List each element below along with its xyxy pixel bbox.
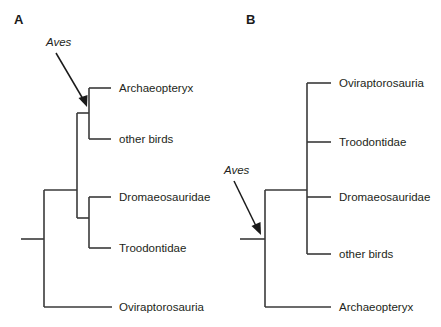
tip-label-dromaeosauridae-b: Dromaeosauridae [339,191,430,203]
clade-label-aves-b: Aves [223,164,250,176]
tip-label-other-birds-b: other birds [339,248,394,260]
clade-label-aves-a: Aves [45,36,72,48]
tip-label-oviraptorosauria-b: Oviraptorosauria [339,77,425,89]
figure-background [0,0,441,327]
tip-label-oviraptorosauria-a: Oviraptorosauria [119,301,205,313]
panel-b-letter: B [246,12,255,27]
panel-a-letter: A [14,12,24,27]
tip-label-troodontidae-b: Troodontidae [339,136,406,148]
tip-label-troodontidae-a: Troodontidae [119,242,186,254]
tip-label-dromaeosauridae-a: Dromaeosauridae [119,191,210,203]
phylogeny-figure: A Archaeopteryx [0,0,441,327]
tip-label-other-birds-a: other birds [119,133,174,145]
tip-label-archaeopteryx-a: Archaeopteryx [119,82,193,94]
tip-label-archaeopteryx-b: Archaeopteryx [339,301,413,313]
